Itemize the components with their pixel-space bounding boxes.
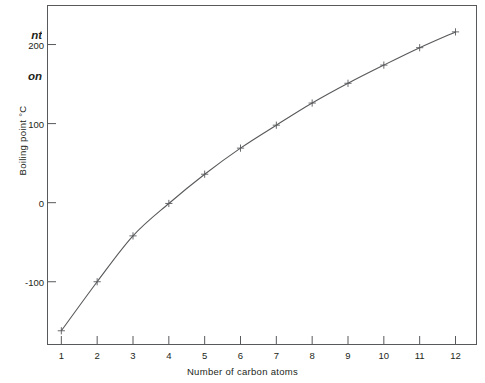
x-tick-label: 2 (82, 350, 112, 361)
x-tick-label: 5 (190, 350, 220, 361)
boiling-point-chart: nt on Boiling point °C Number of carbon … (0, 0, 485, 383)
x-tick-label: 6 (226, 350, 256, 361)
x-tick-label: 10 (369, 350, 399, 361)
x-tick-label: 4 (154, 350, 184, 361)
x-tick-label: 8 (297, 350, 327, 361)
x-tick-label: 9 (333, 350, 363, 361)
x-tick-label: 7 (261, 350, 291, 361)
x-tick-label-group: 123456789101112 (0, 0, 485, 383)
x-tick-label: 12 (441, 350, 471, 361)
x-tick-label: 1 (46, 350, 76, 361)
x-tick-label: 11 (405, 350, 435, 361)
x-tick-label: 3 (118, 350, 148, 361)
